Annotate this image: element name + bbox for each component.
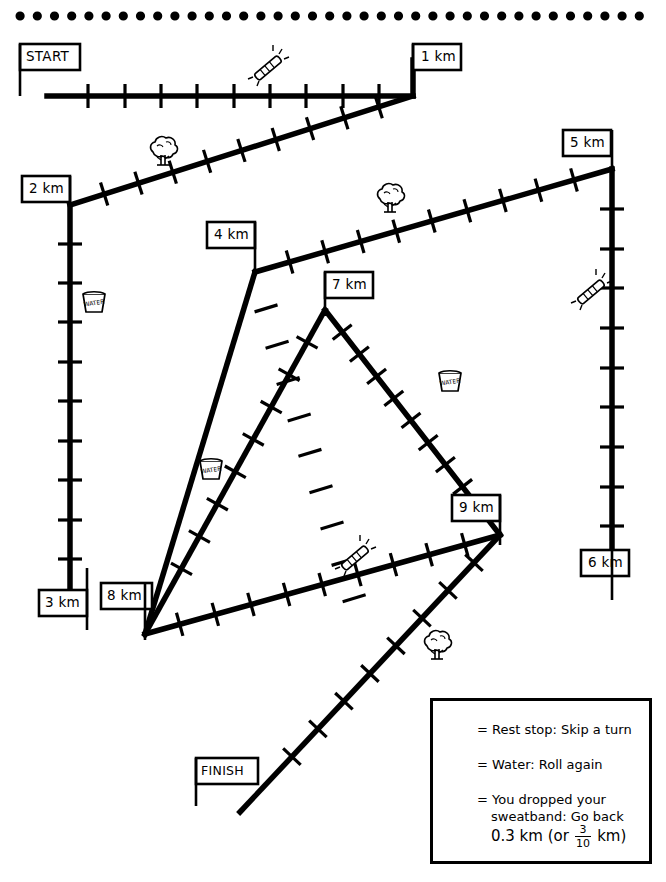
flag-label-1km: 1 km: [421, 48, 456, 64]
flag-label-start: START: [26, 48, 69, 64]
flag-label-2km: 2 km: [29, 180, 64, 196]
track-icons: [83, 45, 612, 659]
flag-label-3km: 3 km: [45, 594, 80, 610]
legend-sweatband-text: = You dropped your sweatband: Go back 0.…: [477, 785, 626, 850]
tree-icon: [425, 631, 452, 659]
flag-label-5km: 5 km: [570, 134, 605, 150]
legend-fraction-denominator: 10: [575, 837, 591, 849]
sweatband-icon: [248, 45, 289, 86]
legend-row-rest-stop: = Rest stop: Skip a turn: [477, 715, 649, 738]
legend-box: = Rest stop: Skip a turn = Water: Roll a…: [430, 698, 652, 864]
legend-sweatband-line3-pre: 0.3 km (or: [491, 827, 569, 845]
legend-rest-stop-label: Rest stop: Skip a turn: [492, 722, 632, 737]
legend-water-label: Water: Roll again: [492, 757, 603, 772]
legend-equals-1: =: [477, 722, 488, 737]
flag-label-4km: 4 km: [214, 226, 249, 242]
flag-label-7km: 7 km: [332, 276, 367, 292]
track-ticks: [58, 84, 624, 765]
flag-label-8km: 8 km: [107, 587, 142, 603]
water-cup-icon: [439, 371, 461, 391]
legend-equals-3: =: [477, 792, 488, 807]
water-cup-icon: [83, 292, 105, 312]
tree-icon: [151, 137, 178, 165]
legend-sweatband-line1: You dropped your: [492, 792, 606, 807]
worksheet-page: WATER: [0, 0, 666, 882]
flag-label-6km: 6 km: [588, 554, 623, 570]
water-cup-icon: [200, 459, 222, 479]
legend-water-text: = Water: Roll again: [477, 750, 603, 773]
legend-sweatband-line3-post: km): [597, 827, 626, 845]
tree-icon: [378, 184, 405, 212]
legend-equals-2: =: [477, 757, 488, 772]
legend-fraction: 3 10: [575, 824, 591, 849]
legend-fraction-numerator: 3: [575, 824, 591, 837]
legend-sweatband-line2: sweatband: Go back: [477, 808, 626, 825]
flag-label-9km: 9 km: [459, 499, 494, 515]
legend-row-water: = Water: Roll again: [477, 750, 649, 773]
track-flags: [20, 44, 629, 806]
flag-label-finish: FINISH: [201, 763, 244, 778]
legend-row-sweatband: = You dropped your sweatband: Go back 0.…: [477, 785, 653, 850]
legend-rest-stop-text: = Rest stop: Skip a turn: [477, 715, 632, 738]
